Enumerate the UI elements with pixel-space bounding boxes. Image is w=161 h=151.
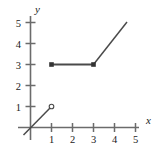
y-tick-label-5: 5 <box>16 18 21 29</box>
x-tick-label-4: 4 <box>112 134 118 145</box>
segment-rising <box>94 22 128 65</box>
y-axis-label: y <box>34 3 40 15</box>
y-tick-label-4: 4 <box>16 39 22 50</box>
y-tick-label-3: 3 <box>16 60 21 71</box>
segment-diagonal-lower <box>24 107 52 136</box>
closed-point-3-3 <box>91 62 96 67</box>
x-axis-label: x <box>145 114 151 126</box>
x-tick-label-1: 1 <box>49 134 54 145</box>
y-tick-label-2: 2 <box>16 81 21 92</box>
x-tick-label-3: 3 <box>91 134 96 145</box>
open-point-1-1 <box>49 104 54 109</box>
coordinate-plane: 5 4 3 2 1 1 2 3 4 5 y x <box>0 0 161 151</box>
closed-point-1-3 <box>49 62 54 67</box>
graph-figure: 5 4 3 2 1 1 2 3 4 5 y x <box>0 0 161 151</box>
x-tick-label-5: 5 <box>133 134 138 145</box>
y-tick-label-1: 1 <box>16 102 21 113</box>
x-tick-label-2: 2 <box>70 134 75 145</box>
